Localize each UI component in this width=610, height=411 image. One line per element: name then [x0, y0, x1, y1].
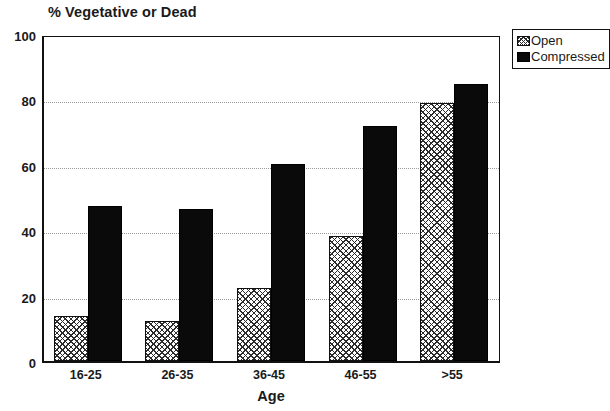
bar-open-26-35 — [145, 321, 179, 361]
y-tick-label: 100 — [2, 29, 36, 44]
x-tick-label: 36-45 — [253, 368, 285, 382]
bar-compressed-36-45 — [271, 164, 305, 362]
legend-swatch-compressed-icon — [517, 52, 530, 62]
bar-compressed-26-35 — [179, 209, 213, 361]
bar-open-16-25 — [54, 316, 88, 361]
bar-open->55 — [420, 103, 454, 361]
chart-legend: Open Compressed — [512, 29, 610, 69]
legend-label-open: Open — [531, 34, 563, 48]
legend-swatch-open-icon — [517, 36, 530, 46]
bar-compressed-46-55 — [363, 126, 397, 361]
y-tick-label: 20 — [2, 290, 36, 305]
bar-compressed-16-25 — [88, 206, 122, 361]
legend-label-compressed: Compressed — [531, 50, 605, 64]
x-tick-label: 46-55 — [345, 368, 377, 382]
bars-layer — [44, 37, 499, 361]
legend-item-compressed: Compressed — [517, 49, 607, 65]
plot-area — [42, 36, 500, 363]
chart-title: % Vegetative or Dead — [48, 4, 197, 20]
x-tick-label: 16-25 — [70, 368, 102, 382]
y-tick-label: 0 — [2, 356, 36, 371]
legend-item-open: Open — [517, 33, 607, 49]
x-axis-title: Age — [257, 388, 284, 404]
bar-open-46-55 — [329, 236, 363, 361]
bar-open-36-45 — [237, 288, 271, 361]
y-tick-label: 80 — [2, 94, 36, 109]
y-tick-label: 60 — [2, 159, 36, 174]
x-tick-label: 26-35 — [161, 368, 193, 382]
y-tick-label: 40 — [2, 225, 36, 240]
bar-compressed->55 — [454, 84, 488, 361]
y-axis-tick-labels: 020406080100 — [0, 36, 36, 363]
x-tick-label: >55 — [442, 368, 463, 382]
